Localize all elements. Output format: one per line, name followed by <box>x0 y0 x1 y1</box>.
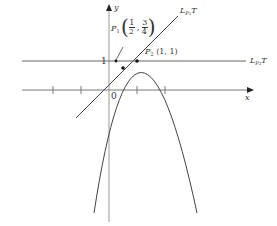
p2-label: P2 (1, 1) <box>145 48 178 57</box>
y-axis-label: y <box>114 4 119 12</box>
origin-label: 0 <box>111 92 117 101</box>
p1-coords: ( 1 2 , 3 4 ) <box>121 17 156 37</box>
x-axis-label: x <box>245 94 250 102</box>
point-intersection <box>115 60 118 63</box>
y-axis-arrow-icon <box>106 4 112 11</box>
tangent-p2-label: LP2T <box>250 57 267 66</box>
point-p2 <box>135 59 139 63</box>
p1-label: P1 <box>111 25 120 34</box>
tangent-p1-label: LP1T <box>180 7 197 16</box>
point-p1 <box>121 66 125 70</box>
y-tick-one-label: 1 <box>101 57 107 66</box>
p1-leader <box>116 47 123 60</box>
